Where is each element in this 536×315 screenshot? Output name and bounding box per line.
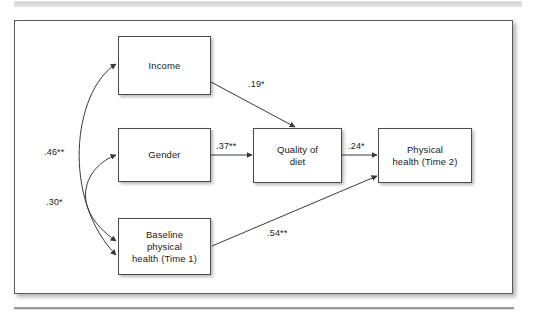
figure-page: Income Gender Baseline physical health (…: [0, 0, 536, 315]
curve-gender-baseline: [86, 155, 116, 241]
page-divider-rule: [14, 307, 514, 309]
node-baseline-physical-health[interactable]: Baseline physical health (Time 1): [118, 218, 211, 275]
coefficient-income-to-quality: .19*: [248, 79, 265, 89]
node-physical-health[interactable]: Physical health (Time 2): [378, 128, 472, 183]
coefficient-baseline-to-physical: .54**: [267, 228, 288, 238]
node-gender[interactable]: Gender: [118, 128, 211, 182]
coefficient-gender-baseline: .30*: [46, 197, 63, 207]
node-quality-of-diet[interactable]: Quality of diet: [253, 128, 342, 183]
coefficient-quality-to-physical: .24*: [348, 141, 365, 151]
coefficient-gender-to-quality: .37**: [216, 141, 237, 151]
arrow-baseline-to-physical: [212, 176, 377, 246]
curve-income-baseline: [79, 64, 116, 255]
node-income[interactable]: Income: [118, 36, 211, 95]
coefficient-income-baseline: .46**: [44, 147, 65, 157]
